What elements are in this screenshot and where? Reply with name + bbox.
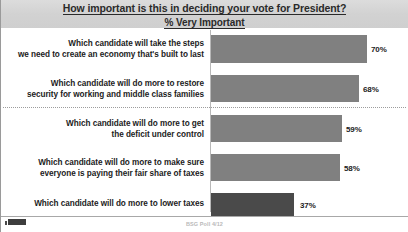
- bar-category-label: Which candidate will do more to make sur…: [1, 158, 204, 179]
- bar-category-label-line1: Which candidate will do more to get: [1, 119, 204, 130]
- page-title-text: How important is this in deciding your v…: [63, 2, 347, 15]
- bar-category-label-line2: the deficit under control: [1, 130, 204, 141]
- bar-category-label-line2: we need to create an economy that's buil…: [1, 50, 204, 61]
- slide-canvas: How important is this in deciding your v…: [0, 0, 408, 232]
- bar-category-label-line1: Which candidate will do more to make sur…: [1, 158, 204, 169]
- bar-category-label: Which candidate will take the steps we n…: [1, 39, 204, 60]
- page-title: How important is this in deciding your v…: [1, 0, 408, 15]
- chart-row: Which candidate will do more to restore …: [1, 72, 408, 108]
- bar-category-label: Which candidate will do more to restore …: [1, 79, 204, 100]
- bar-value-label: 59%: [346, 125, 362, 134]
- bar-category-label: Which candidate will do more to lower ta…: [1, 199, 204, 210]
- footer-divider: [1, 216, 408, 217]
- bar-lower-taxes: [211, 193, 294, 218]
- bar-fair-share-taxes: [211, 154, 340, 181]
- chart-row: Which candidate will take the steps we n…: [1, 32, 408, 68]
- bar-deficit-under-control: [211, 115, 342, 142]
- bar-category-label-line1: Which candidate will do more to lower ta…: [1, 199, 204, 210]
- chart-row: Which candidate will do more to make sur…: [1, 151, 408, 187]
- bar-category-label-line1: Which candidate will do more to restore: [1, 79, 204, 90]
- bar-category-label-line2: everyone is paying their fair share of t…: [1, 169, 204, 180]
- bar-category-label-line2: security for working and middle class fa…: [1, 90, 204, 101]
- slide-footer: BSG Poll 4/12: [1, 216, 408, 232]
- bar-chart: Which candidate will take the steps we n…: [1, 28, 408, 215]
- bar-value-label: 58%: [344, 164, 360, 173]
- bar-economy-built-to-last: [211, 35, 367, 63]
- bar-category-label-line1: Which candidate will take the steps: [1, 39, 204, 50]
- bar-security-middle-class: [211, 75, 359, 102]
- page-subtitle: % Very Important: [1, 15, 408, 29]
- slide-header: How important is this in deciding your v…: [1, 0, 408, 28]
- chart-row: Which candidate will do more to get the …: [1, 112, 408, 148]
- bar-value-label: 68%: [363, 85, 379, 94]
- source-note: BSG Poll 4/12: [1, 221, 408, 227]
- bar-value-label: 37%: [300, 201, 316, 210]
- bar-category-label: Which candidate will do more to get the …: [1, 119, 204, 140]
- bar-value-label: 70%: [371, 45, 387, 54]
